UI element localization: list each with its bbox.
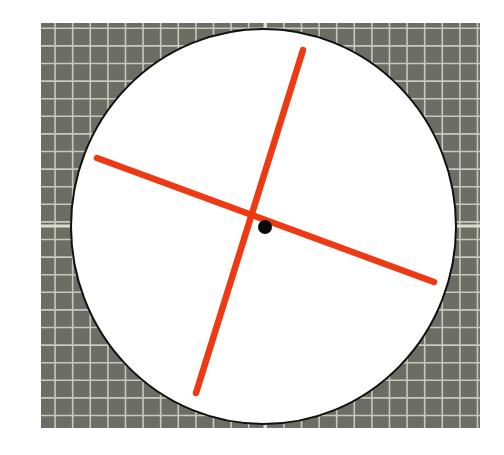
rotated-cross-diagram bbox=[0, 0, 504, 455]
center-pivot-dot bbox=[258, 220, 272, 234]
